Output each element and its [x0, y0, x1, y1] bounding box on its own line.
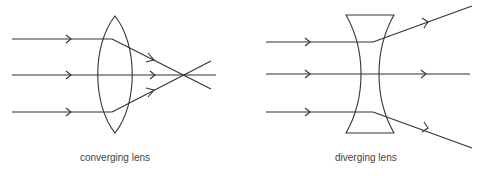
- arrow-icon: [146, 53, 154, 62]
- lens-diagram-canvas: [0, 0, 485, 176]
- converging-lens-label: converging lens: [80, 152, 150, 163]
- converging-lens-diagram: [12, 16, 216, 133]
- converging-ray-top-refracted: [112, 39, 211, 89]
- diverging-ray-bottom-refracted: [373, 112, 472, 148]
- diverging-lens-diagram: [266, 6, 472, 148]
- diverging-lens-label: diverging lens: [335, 152, 397, 163]
- converging-ray-bottom-refracted: [112, 61, 211, 112]
- diverging-ray-top-refracted: [373, 6, 472, 42]
